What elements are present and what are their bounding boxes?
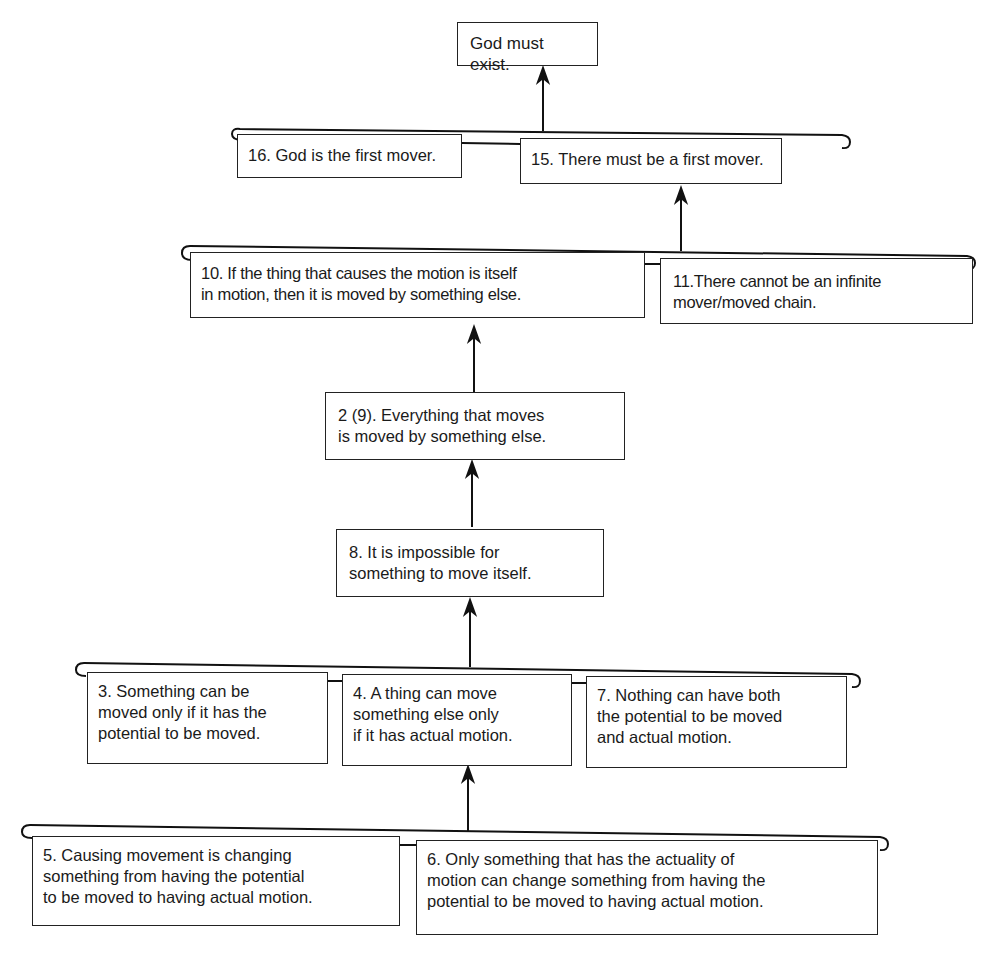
node-16: 16. God is the first mover. [237, 134, 462, 178]
node-15: 15. There must be a first mover. [520, 138, 782, 184]
node-10: 10. If the thing that causes the motion … [190, 252, 645, 318]
connector-lines [0, 0, 1008, 964]
node-6: 6. Only something that has the actuality… [416, 840, 878, 935]
node-2-9: 2 (9). Everything that moves is moved by… [325, 392, 625, 460]
node-conclusion: God must exist. [457, 22, 598, 66]
node-11: 11.There cannot be an infinite mover/mov… [660, 258, 973, 324]
node-8: 8. It is impossible for something to mov… [336, 529, 604, 597]
node-7: 7. Nothing can have both the potential t… [586, 676, 847, 768]
node-4: 4. A thing can move something else only … [342, 674, 572, 766]
node-3: 3. Something can be moved only if it has… [87, 672, 328, 764]
node-5: 5. Causing movement is changing somethin… [32, 836, 400, 926]
